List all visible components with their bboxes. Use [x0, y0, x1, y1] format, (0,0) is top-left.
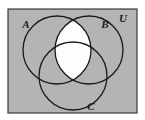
set-label-a: A: [21, 18, 29, 30]
venn-diagram-figure: A B C U: [0, 0, 145, 120]
venn-diagram-canvas: A B C U: [0, 0, 145, 120]
universal-set-label: U: [119, 12, 128, 24]
set-label-c: C: [87, 100, 95, 112]
set-label-b: B: [100, 18, 108, 30]
